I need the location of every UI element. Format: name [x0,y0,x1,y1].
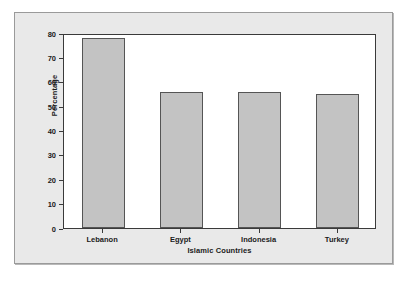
y-axis-ticks: 01020304050607080 [15,34,63,229]
y-axis-tick-label: 10 [48,200,56,209]
y-axis-tick-label: 50 [48,103,56,112]
y-axis-tick-label: 70 [48,54,56,63]
y-axis-tick-label: 60 [48,78,56,87]
x-axis-tick-label: Turkey [325,235,349,244]
x-axis-tick-label: Egypt [170,235,191,244]
bar [238,92,281,229]
x-axis-tick-mark [259,229,260,233]
y-axis-tick-label: 30 [48,151,56,160]
bar [160,92,203,229]
x-axis-title: Islamic Countries [63,246,376,255]
plot-area [63,34,376,229]
x-axis-tick-mark [102,229,103,233]
y-axis-tick-label: 20 [48,176,56,185]
x-axis-tick-mark [180,229,181,233]
y-axis-tick-label: 40 [48,127,56,136]
figure-root: Percentage 01020304050607080 LebanonEgyp… [0,0,409,281]
chart-panel: Percentage 01020304050607080 LebanonEgyp… [14,12,393,264]
bar [82,38,125,228]
x-axis-tick-mark [337,229,338,233]
y-axis-tick-label: 80 [48,30,56,39]
x-axis-tick-label: Lebanon [87,235,118,244]
y-axis-tick-label: 0 [52,225,56,234]
x-axis-tick-label: Indonesia [241,235,276,244]
bar [316,94,359,228]
bars-layer [64,35,375,228]
